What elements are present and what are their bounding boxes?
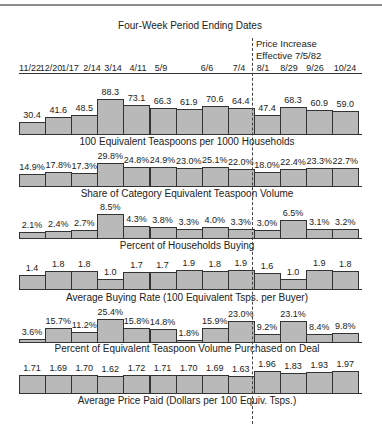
bar-value-label: 1.8% (178, 328, 199, 338)
bar-value-label: 25.4% (98, 307, 124, 317)
panel-title: Percent of Equivalent Teaspoon Volume Pu… (40, 343, 334, 354)
bar-value-label: 25.1% (202, 155, 228, 165)
bar (123, 105, 150, 135)
bar-value-label: 17.8% (45, 160, 71, 170)
bar (280, 169, 307, 187)
bar (280, 373, 307, 394)
bar-value-label: 3.3% (231, 217, 252, 227)
bar-value-label: 9.8% (335, 321, 356, 331)
bar (176, 168, 203, 187)
bar-value-label: 48.5 (75, 103, 93, 113)
bar-value-label: 1.83 (284, 361, 302, 371)
bar-value-label: 29.8% (98, 151, 124, 161)
price-increase-effective-note: Effective 7/5/82 (256, 50, 321, 61)
date-label: 12/20 (40, 63, 63, 73)
bar-value-label: 1.62 (102, 364, 120, 374)
bar (176, 375, 203, 394)
bar (176, 270, 203, 290)
bar-value-label: 3.8% (152, 215, 173, 225)
bar (202, 375, 229, 394)
bar (97, 319, 124, 343)
date-label: 8/1 (257, 63, 270, 73)
bar (254, 273, 281, 290)
bar (97, 163, 124, 187)
bar (332, 111, 359, 135)
chart-root: Four-Week Period Ending Dates Price Incr… (0, 0, 382, 438)
bar-value-label: 1.6 (261, 261, 274, 271)
bar-value-label: 88.3 (102, 87, 120, 97)
panel-baseline (19, 134, 362, 135)
chart-title: Four-Week Period Ending Dates (90, 20, 290, 31)
date-label: 10/24 (334, 63, 357, 73)
bar (97, 99, 124, 135)
bar-value-label: 24.8% (124, 155, 150, 165)
bar-value-label: 4.3% (126, 214, 147, 224)
bar (123, 272, 150, 290)
bar (228, 169, 255, 187)
bar (71, 375, 98, 394)
bar-value-label: 1.97 (336, 359, 354, 369)
bar-value-label: 1.0 (287, 267, 300, 277)
bar-value-label: 59.0 (336, 99, 354, 109)
bar (71, 271, 98, 290)
bar-value-label: 64.4 (232, 96, 250, 106)
bar-value-label: 3.3% (178, 217, 199, 227)
bar-value-label: 15.8% (124, 316, 150, 326)
bar (202, 106, 229, 135)
bar-value-label: 3.6% (22, 327, 43, 337)
panel-baseline (19, 186, 362, 187)
date-label: 1/17 (61, 63, 79, 73)
bar-value-label: 1.72 (128, 363, 146, 373)
bar-value-label: 1.8 (208, 259, 221, 269)
bar (71, 115, 98, 135)
date-label: 11/22 (19, 63, 41, 73)
bar (332, 371, 359, 394)
bar (45, 328, 72, 343)
bar-value-label: 15.7% (45, 316, 71, 326)
bar-value-label: 1.96 (258, 359, 276, 369)
panel-title: Share of Category Equivalent Teaspoon Vo… (40, 188, 334, 199)
bar-value-label: 8.4% (309, 322, 330, 332)
bar (45, 117, 72, 135)
bar (176, 109, 203, 135)
bar (202, 271, 229, 290)
date-label: 6/6 (201, 63, 214, 73)
bar-value-label: 1.70 (75, 363, 93, 373)
bar (150, 108, 177, 135)
bar-value-label: 3.2% (335, 217, 356, 227)
bar-value-label: 68.3 (284, 95, 302, 105)
bar-value-label: 1.63 (232, 364, 250, 374)
bar (45, 375, 72, 394)
bar-value-label: 66.3 (154, 96, 172, 106)
bar (123, 167, 150, 187)
bar (202, 328, 229, 343)
bar-value-label: 1.69 (49, 363, 67, 373)
bar (150, 167, 177, 187)
bar-value-label: 2.7% (74, 218, 95, 228)
date-label: 9/26 (306, 63, 324, 73)
bar-value-label: 1.8 (339, 259, 352, 269)
bar (150, 272, 177, 290)
bar (45, 172, 72, 187)
bar (306, 372, 333, 394)
bar (123, 328, 150, 343)
bar-value-label: 3.0% (257, 218, 278, 228)
bar-value-label: 1.7 (130, 260, 143, 270)
bar (19, 275, 46, 290)
bar-value-label: 15.9% (202, 316, 228, 326)
bar-value-label: 22.7% (332, 156, 358, 166)
bar (97, 214, 124, 239)
bar-value-label: 9.2% (257, 322, 278, 332)
panel-baseline (19, 238, 362, 239)
bar (332, 168, 359, 187)
top-rule (0, 4, 382, 6)
bar (280, 321, 307, 343)
date-label: 3/14 (104, 63, 122, 73)
bar (71, 173, 98, 187)
panel-baseline (19, 289, 362, 290)
panel-title: Average Price Paid (Dollars per 100 Equi… (40, 395, 334, 406)
bar-value-label: 1.9 (182, 258, 195, 268)
bar-value-label: 14.8% (150, 317, 176, 327)
bar-value-label: 41.6 (49, 105, 67, 115)
bar-value-label: 17.3% (71, 161, 97, 171)
